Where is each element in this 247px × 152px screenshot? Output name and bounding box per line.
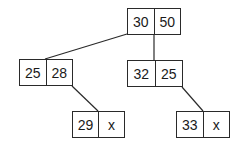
node-key: 25 xyxy=(20,60,46,85)
node-key: 30 xyxy=(128,9,154,34)
edge-left-leftchild xyxy=(72,86,98,111)
node-key: 28 xyxy=(46,60,73,85)
node-key: 29 xyxy=(73,112,98,137)
node-key: x xyxy=(98,112,124,137)
tree-node-middle-child: 33 x xyxy=(176,111,230,138)
edge-middle-middlechild xyxy=(182,87,203,111)
tree-node-left: 25 28 xyxy=(19,59,73,86)
node-key: 25 xyxy=(155,61,183,86)
edge-root-left xyxy=(45,34,127,59)
node-key: 32 xyxy=(128,61,155,86)
node-key: 50 xyxy=(154,9,181,34)
tree-node-left-child: 29 x xyxy=(72,111,125,138)
node-key: 33 xyxy=(177,112,203,137)
tree-node-root: 30 50 xyxy=(127,8,181,35)
node-key: x xyxy=(203,112,230,137)
tree-node-middle: 32 25 xyxy=(127,60,183,87)
